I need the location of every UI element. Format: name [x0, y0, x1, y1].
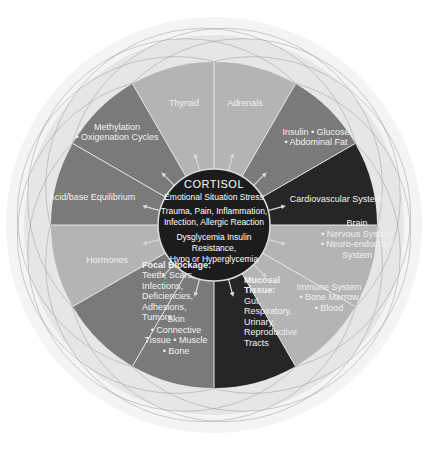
- segment-label-insulin: Insulin • Glucose• Abdominal Fat: [282, 127, 349, 148]
- segment-label-thyroid: Thyroid: [169, 98, 199, 108]
- segment-label-cardiovascular: Cardiovascular System: [290, 194, 383, 204]
- segment-label-hormones: Hormones: [86, 255, 128, 265]
- center-line-5: Resistance,: [192, 243, 236, 253]
- center-title: CORTISOL: [184, 178, 244, 190]
- center-line-1: Emotional Situation Stress: [164, 192, 264, 202]
- center-line-3: Infection, Allergic Reaction: [164, 217, 264, 227]
- segment-label-acid-base: Acid/base Equilibrium: [49, 192, 136, 202]
- cortisol-wheel-diagram: CORTISOL Emotional Situation Stress Trau…: [0, 0, 429, 449]
- segment-label-adrenals: Adrenals: [227, 98, 263, 108]
- center-line-4: Dysglycemia Insulin: [176, 232, 251, 242]
- center-line-2: Trauma, Pain, Inflammation,: [161, 206, 267, 216]
